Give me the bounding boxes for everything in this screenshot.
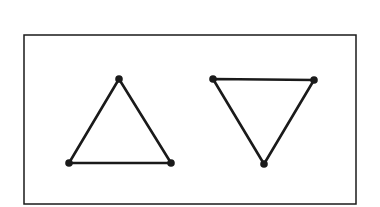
vertex-dot <box>167 159 175 167</box>
vertex-dot <box>310 76 318 84</box>
vertex-dot <box>260 160 268 168</box>
vertex-dot <box>115 75 123 83</box>
vertex-dot <box>209 75 217 83</box>
downward-triangle <box>209 75 318 168</box>
downward-triangle-outline <box>213 79 314 164</box>
vertex-dot <box>65 159 73 167</box>
upward-triangle <box>65 75 175 167</box>
triangles-group <box>65 75 318 168</box>
diagram-canvas <box>0 0 380 207</box>
upward-triangle-outline <box>69 79 171 163</box>
frame-rectangle <box>24 35 356 204</box>
